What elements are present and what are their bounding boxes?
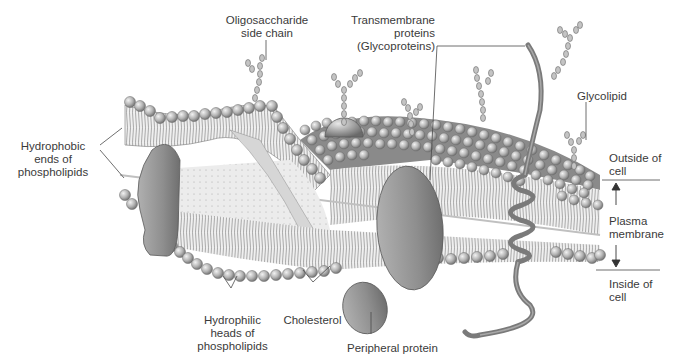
- label-inside-of-cell: Inside of cell: [609, 278, 678, 304]
- label-glycolipid: Glycolipid: [577, 90, 667, 103]
- label-oligosaccharide-side-chain: Oligosaccharide side chain: [222, 14, 312, 40]
- label-transmembrane-proteins: Transmembrane proteins (Glycoproteins): [340, 14, 435, 53]
- left-transmembrane-protein: [138, 144, 180, 256]
- plasma-membrane-diagram: Oligosaccharide side chain Transmembrane…: [0, 0, 678, 362]
- label-outside-of-cell: Outside of cell: [609, 152, 678, 178]
- peripheral-protein: [337, 277, 393, 339]
- label-peripheral-protein: Peripheral protein: [347, 342, 457, 355]
- label-cholesterol: Cholesterol: [275, 314, 350, 327]
- label-plasma-membrane: Plasma membrane: [609, 215, 678, 241]
- label-hydrophilic-heads: Hydrophilic heads of phospholipids: [190, 314, 275, 353]
- label-hydrophobic-ends: Hydrophobic ends of phospholipids: [8, 140, 98, 179]
- membrane-illustration: [0, 0, 678, 362]
